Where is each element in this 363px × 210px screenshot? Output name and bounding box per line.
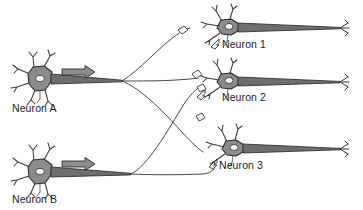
neuron-3-axon-terminal xyxy=(340,141,349,157)
neuron-1-axon-terminal xyxy=(340,20,349,36)
bouton-a-to-3 xyxy=(196,113,205,121)
neuron-3-nucleus xyxy=(230,145,238,151)
label-neuron-a: Neuron A xyxy=(12,102,57,114)
neuron-a-collaterals xyxy=(122,28,203,152)
neuron-a-group xyxy=(11,50,122,106)
neuron-b-axon xyxy=(51,167,131,177)
bouton-a-to-2 xyxy=(192,70,202,79)
neuron-1-axon xyxy=(238,23,340,32)
neuron-b-nucleus xyxy=(36,168,44,174)
label-neuron-2: Neuron 2 xyxy=(222,91,266,103)
neuron-diagram: Neuron A Neuron B Neuron 1 Neuron 2 Neur… xyxy=(0,0,363,210)
neuron-2-axon xyxy=(238,77,340,86)
neuron-2-axon-terminal xyxy=(340,74,349,90)
neuron-2-nucleus xyxy=(225,78,233,84)
branch-b-to-neuron-2 xyxy=(131,86,201,174)
branch-a-to-neuron-2 xyxy=(122,78,198,81)
synapse-arrow-neuron-1 xyxy=(211,39,219,49)
neuron-b-group xyxy=(11,143,131,199)
neuron-1-nucleus xyxy=(225,24,233,30)
branch-a-to-neuron-3 xyxy=(122,81,203,152)
label-neuron-b: Neuron B xyxy=(12,193,57,205)
neuron-diagram-canvas: Neuron A Neuron B Neuron 1 Neuron 2 Neur… xyxy=(0,0,363,210)
neuron-3-axon xyxy=(243,144,340,153)
label-neuron-1: Neuron 1 xyxy=(222,38,266,50)
neuron-a-nucleus xyxy=(36,75,44,81)
branch-a-to-neuron-1 xyxy=(122,28,190,81)
branch-b-to-neuron-3 xyxy=(131,169,214,175)
label-neuron-3: Neuron 3 xyxy=(219,159,263,171)
